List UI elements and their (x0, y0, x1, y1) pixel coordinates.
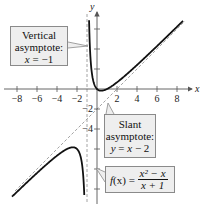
x-tick-label: −2 (72, 93, 83, 104)
x-tick-label: 8 (175, 93, 180, 104)
function-fraction: x² − x x + 1 (138, 168, 168, 191)
x-tick-label: −6 (32, 93, 43, 104)
callout-line: x = −1 (11, 53, 67, 65)
x-tick-label: −8 (12, 93, 23, 104)
x-tick-label: 4 (135, 93, 140, 104)
slant-asymptote-callout: Slant asymptote: y = x − 2 (104, 114, 156, 158)
x-tick-label: −4 (52, 93, 63, 104)
callout-line: y = x − 2 (105, 142, 155, 154)
callout-line: asymptote: (105, 130, 155, 142)
y-tick-label: −2 (82, 103, 93, 114)
function-callout: f(x) = x² − x x + 1 (105, 166, 175, 193)
x-tick-label: 2 (115, 93, 120, 104)
x-axis-label: x (194, 83, 200, 94)
left-branch-curve (12, 147, 84, 196)
right-branch-curve (89, 20, 183, 90)
function-name: f(x) = (110, 174, 138, 186)
x-tick-label: 6 (155, 93, 160, 104)
y-tick-label: −4 (82, 123, 93, 134)
vertical-asymptote-callout: Vertical asymptote: x = −1 (10, 26, 68, 66)
callout-line: asymptote: (11, 41, 67, 53)
denominator: x + 1 (138, 180, 168, 191)
callout-line: Slant (105, 118, 155, 130)
vertical-callout-pointer (68, 42, 88, 48)
slant-callout-pointer (106, 103, 114, 114)
callout-line: Vertical (11, 29, 67, 41)
y-axis-label: y (89, 1, 95, 12)
